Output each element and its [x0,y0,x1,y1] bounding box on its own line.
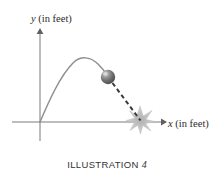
x-axis-label: x (in feet) [168,119,209,130]
y-axis-label-unit: (in feet) [38,13,72,24]
caption-number: 4 [142,159,147,170]
illustration-figure [0,0,214,183]
x-axis-label-var: x [168,118,173,129]
trajectory-solid-curve [40,58,108,122]
x-axis-arrowhead [161,119,167,126]
x-axis-label-unit: (in feet) [175,118,209,129]
y-axis-label-var: y [31,13,36,24]
trajectory-dashed-path [113,83,141,121]
y-axis-label: y (in feet) [31,14,72,25]
caption-text: ILLUSTRATION [67,159,139,170]
figure-caption: ILLUSTRATION 4 [0,160,214,170]
y-axis [37,28,44,141]
ball-icon [101,70,115,84]
y-axis-arrowhead [37,28,44,34]
